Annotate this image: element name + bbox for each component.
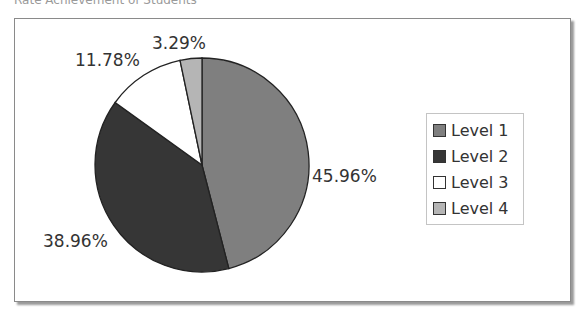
slice-label-level-3: 11.78% — [75, 50, 140, 70]
legend-label: Level 3 — [451, 173, 509, 192]
slice-label-level-2: 38.96% — [43, 231, 108, 251]
chart-legend: Level 1 Level 2 Level 3 Level 4 — [426, 113, 524, 225]
legend-swatch-level-4 — [433, 202, 446, 215]
legend-label: Level 1 — [451, 121, 509, 140]
legend-label: Level 4 — [451, 199, 509, 218]
pie-slices — [95, 58, 309, 272]
slice-label-level-4: 3.29% — [152, 33, 206, 53]
legend-swatch-level-1 — [433, 124, 446, 137]
legend-label: Level 2 — [451, 147, 509, 166]
legend-swatch-level-2 — [433, 150, 446, 163]
slice-label-level-1: 45.96% — [312, 166, 377, 186]
legend-swatch-level-3 — [433, 176, 446, 189]
legend-item-level-4: Level 4 — [433, 195, 519, 221]
legend-item-level-1: Level 1 — [433, 117, 519, 143]
legend-item-level-3: Level 3 — [433, 169, 519, 195]
legend-item-level-2: Level 2 — [433, 143, 519, 169]
